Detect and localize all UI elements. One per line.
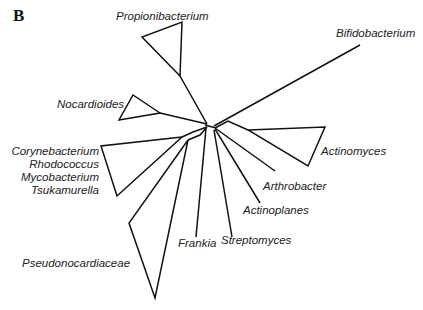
panel-label: B xyxy=(13,6,24,25)
clade-actinomyces: Actinomyces xyxy=(215,121,386,166)
clade-propionibacterium: Propionibacterium xyxy=(116,10,209,124)
clade-triangle-nocardioides xyxy=(119,95,160,120)
branch-group-actinoplanes: Actinoplanes xyxy=(215,129,309,216)
branch-propionibacterium xyxy=(180,76,207,124)
label-actinomyces: Actinomyces xyxy=(320,145,386,157)
branch-frankia xyxy=(196,128,206,237)
label-streptomyces: Streptomyces xyxy=(221,234,292,246)
label-bifidobacterium: Bifidobacterium xyxy=(336,27,416,39)
label-nocardioides: Nocardioides xyxy=(57,98,124,110)
clade-triangle-pseudonocardiaceae xyxy=(129,140,188,298)
label-arthrobacter: Arthrobacter xyxy=(262,180,327,192)
label-tsukamurella: Tsukamurella xyxy=(31,184,99,196)
label-frankia: Frankia xyxy=(178,237,216,249)
label-rhodococcus: Rhodococcus xyxy=(29,158,99,170)
branch-bifidobacterium xyxy=(214,45,360,126)
branch-group-bifidobacterium: Bifidobacterium xyxy=(214,27,416,126)
branch-arthrobacter xyxy=(215,128,275,171)
label-propionibacterium: Propionibacterium xyxy=(116,10,209,22)
label-actinoplanes: Actinoplanes xyxy=(242,204,309,216)
clade-corynebacterium-group: Corynebacterium Rhodococcus Mycobacteriu… xyxy=(11,127,207,196)
label-corynebacterium: Corynebacterium xyxy=(11,145,99,157)
branch-nocardioides xyxy=(160,113,207,124)
clade-triangle-propionibacterium xyxy=(142,22,182,76)
clade-nocardioides: Nocardioides xyxy=(57,95,207,124)
branch-actinoplanes xyxy=(215,129,260,203)
phylogenetic-tree: B Propionibacterium Bifidobacterium Noca… xyxy=(0,0,423,310)
label-mycobacterium: Mycobacterium xyxy=(21,171,99,183)
label-pseudonocardiaceae: Pseudonocardiaceae xyxy=(22,257,130,269)
branch-streptomyces xyxy=(214,130,232,237)
